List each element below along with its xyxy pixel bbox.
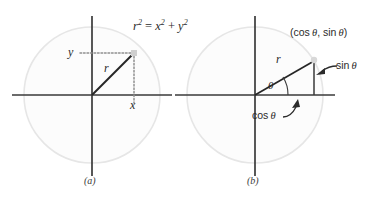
point-label-comma: ,	[317, 26, 320, 38]
panel-b-point-marker	[311, 57, 317, 63]
panel-a-x-label: x	[130, 99, 135, 111]
equation-term2-exp: 2	[184, 18, 188, 27]
sin-label-argument: θ	[352, 60, 357, 71]
panel-b-caption: (b)	[247, 176, 259, 186]
panel-a-r-label: r	[104, 62, 109, 74]
equation-lhs-exp: 2	[138, 18, 142, 27]
panel-b-theta-label: θ	[268, 80, 273, 91]
panel-b-graphics	[175, 16, 337, 176]
cos-label-argument: θ	[270, 110, 275, 121]
panel-a-point-marker	[131, 50, 137, 56]
panel-b-cos-label: cos θ	[252, 110, 276, 122]
panel-b-r-label: r	[276, 53, 281, 65]
equation-equals: =	[145, 19, 152, 33]
equation-plus: +	[168, 19, 175, 33]
sin-label-function: sin	[336, 59, 349, 71]
point-label-cos: cos	[294, 26, 310, 38]
panel-b-sin-label: sin θ	[336, 60, 357, 72]
cos-label-function: cos	[252, 109, 268, 121]
panel-a-graphics	[12, 16, 172, 176]
figure-root: r2 = x2 + y2 y r x (a) (cos θ, sin θ) r …	[0, 0, 366, 201]
point-label-close-paren: )	[344, 26, 348, 38]
panel-b-point-label: (cos θ, sin θ)	[290, 27, 347, 39]
panel-a-caption: (a)	[84, 176, 96, 186]
equation-term1-exp: 2	[161, 18, 165, 27]
point-label-sin: sin	[323, 26, 336, 38]
panel-a-y-label: y	[68, 46, 73, 58]
panel-a-equation: r2 = x2 + y2	[133, 20, 188, 33]
